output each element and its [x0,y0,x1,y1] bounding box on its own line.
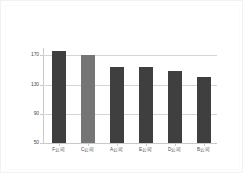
x-tick-mark [175,143,176,146]
y-tick-label: 130 [21,82,39,87]
y-axis-tick-labels: 5090130170 [19,1,39,173]
bar [168,71,182,143]
y-tick-label: 170 [21,52,39,57]
x-tick-mark [88,143,89,146]
x-axis-line [43,143,217,144]
x-axis-tick-labels: F公司C公司A公司E公司D公司B公司 [44,147,217,159]
bars-layer [44,48,217,143]
x-tick-mark [146,143,147,146]
x-tick-mark [59,143,60,146]
x-tick-mark [117,143,118,146]
x-tick-label: E公司 [132,147,160,153]
x-tick-label: C公司 [74,147,102,153]
x-tick-label: F公司 [45,147,73,153]
y-tick-mark [40,55,43,56]
bar [52,51,66,143]
x-tick-label: D公司 [161,147,189,153]
chart-figure: 5090130170 F公司C公司A公司E公司D公司B公司 [0,0,243,173]
y-tick-mark [40,114,43,115]
y-tick-label: 90 [21,111,39,116]
x-tick-mark [204,143,205,146]
y-tick-mark [40,143,43,144]
bar [139,67,153,143]
bar [81,55,95,143]
x-tick-label: B公司 [190,147,218,153]
y-tick-mark [40,85,43,86]
y-tick-label: 50 [21,140,39,145]
bar [110,67,124,143]
bar [197,77,211,144]
x-tick-label: A公司 [103,147,131,153]
